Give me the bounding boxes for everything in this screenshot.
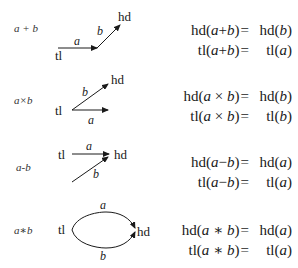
node-tail: tl (55, 103, 63, 118)
diagram-sum: tl hd a b (50, 0, 150, 66)
node-tail: tl (58, 222, 66, 237)
edge-b-arrow (72, 84, 108, 110)
row-product: a×b tl hd b a hd(a × b) = hd(b) tl(a × b… (0, 66, 298, 132)
edge-label-b: b (93, 167, 99, 181)
diagram-product: tl hd b a (50, 66, 150, 132)
op-label-sum: a + b (14, 22, 38, 34)
equation-tl: tl(a × b) = tl(b) (160, 106, 292, 126)
equations-sum: hd(a+b) = hd(b) tl(a+b) = tl(a) (160, 20, 292, 60)
equation-hd: hd(a ∗ b) = hd(a) (160, 220, 292, 240)
equation-tl: tl(a−b) = tl(a) (160, 172, 292, 192)
equations-star: hd(a ∗ b) = hd(a) tl(a ∗ b) = tl(a) (160, 220, 292, 260)
equation-hd: hd(a+b) = hd(b) (160, 20, 292, 40)
op-label-product: a×b (14, 94, 32, 106)
diagram-star: tl hd a b (50, 198, 160, 268)
node-head: hd (118, 9, 132, 24)
node-tail: tl (58, 147, 66, 162)
diagram-difference: tl hd a b (50, 132, 150, 198)
edge-label-a: a (86, 139, 92, 153)
op-label-star: a∗b (14, 224, 32, 237)
row-difference: a-b tl hd a b hd(a−b) = hd(a) tl(a−b) = … (0, 132, 298, 198)
equations-product: hd(a × b) = hd(b) tl(a × b) = tl(b) (160, 86, 292, 126)
edge-label-b: b (100, 249, 106, 263)
edge-label-b: b (82, 85, 88, 99)
row-sum: a + b tl hd a b hd(a+b) = hd(b) tl(a+b) … (0, 0, 298, 66)
equation-tl: tl(a+b) = tl(a) (160, 40, 292, 60)
edge-label-b: b (97, 24, 103, 38)
edge-label-a: a (100, 198, 106, 212)
edge-label-a: a (74, 34, 80, 48)
edge-b-arc (72, 230, 135, 248)
edge-label-a: a (88, 113, 94, 127)
node-head: hd (111, 72, 125, 87)
edge-a-arc (72, 212, 135, 230)
equation-hd: hd(a−b) = hd(a) (160, 152, 292, 172)
op-label-difference: a-b (16, 161, 31, 173)
equation-hd: hd(a × b) = hd(b) (160, 86, 292, 106)
equations-difference: hd(a−b) = hd(a) tl(a−b) = tl(a) (160, 152, 292, 192)
row-star: a∗b tl hd a b hd(a ∗ b) = hd(a) tl(a ∗ b… (0, 198, 298, 268)
equation-tl: tl(a ∗ b) = tl(a) (160, 240, 292, 260)
edge-b-arrow (72, 157, 108, 182)
node-head: hd (137, 224, 151, 239)
node-head: hd (114, 147, 128, 162)
node-tail: tl (55, 48, 63, 63)
